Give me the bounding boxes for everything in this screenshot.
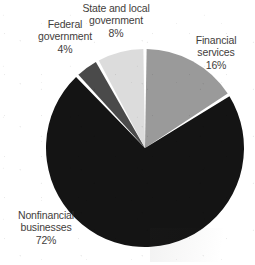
pie-label-financial-services: Financial services 16% <box>178 34 254 71</box>
pie-chart: State and local government 8% Federal go… <box>0 0 255 265</box>
pie-label-federal-government: Federal government 4% <box>20 18 110 55</box>
pie-label-nonfinancial-businesses: Nonfinancial businesses 72% <box>0 209 92 246</box>
